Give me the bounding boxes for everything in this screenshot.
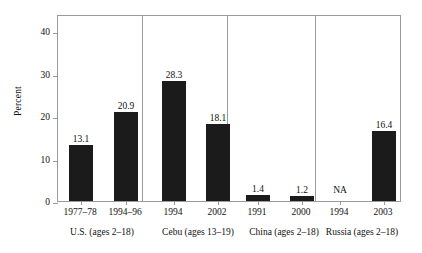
- y-axis-title: Percent: [13, 61, 23, 141]
- x-axis-tick-label: 2003: [353, 208, 413, 218]
- bar: [162, 81, 186, 201]
- plot-area: 40302010013.120.928.318.11.41.216.4NA: [57, 15, 401, 202]
- bar: [69, 145, 93, 201]
- bar: [114, 112, 138, 201]
- x-axis-tick-mark: [174, 201, 175, 205]
- y-axis-tick-mark: [53, 33, 58, 34]
- y-axis-tick-label: 40: [24, 28, 50, 38]
- y-axis-tick-mark: [53, 118, 58, 119]
- na-annotation: NA: [320, 186, 360, 196]
- y-axis-tick-label: 30: [24, 71, 50, 81]
- y-axis-tick-mark: [53, 203, 58, 204]
- y-axis-tick-mark: [53, 76, 58, 77]
- bar: [372, 131, 396, 201]
- bar-chart-figure: Percent 40302010013.120.928.318.11.41.21…: [0, 0, 422, 253]
- x-axis-tick-mark: [81, 201, 82, 205]
- x-axis-tick-mark: [302, 201, 303, 205]
- y-axis-tick-label: 10: [24, 156, 50, 166]
- y-axis-tick-mark: [53, 161, 58, 162]
- bar-value-label: 1.2: [282, 186, 322, 196]
- y-axis-tick-label: 20: [24, 113, 50, 123]
- bar-value-label: 18.1: [198, 114, 238, 124]
- bar-value-label: 28.3: [154, 71, 194, 81]
- bar-value-label: 13.1: [61, 135, 101, 145]
- x-axis-tick-mark: [218, 201, 219, 205]
- x-axis-tick-mark: [126, 201, 127, 205]
- x-axis-tick-mark: [340, 201, 341, 205]
- x-axis-tick-mark: [258, 201, 259, 205]
- group-label: Russia (ages 2–18): [302, 228, 422, 238]
- bar: [206, 124, 230, 201]
- group-separator-3: [315, 16, 316, 201]
- bar-value-label: 16.4: [364, 121, 404, 131]
- x-axis-tick-mark: [384, 201, 385, 205]
- bar-value-label: 20.9: [106, 102, 146, 112]
- bar-value-label: 1.4: [238, 185, 278, 195]
- y-axis-tick-label: 0: [24, 198, 50, 208]
